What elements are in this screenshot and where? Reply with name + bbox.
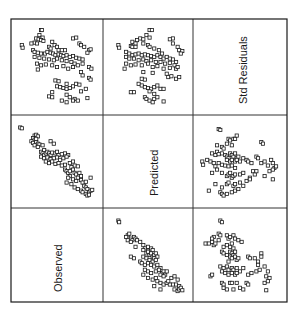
data-point bbox=[55, 150, 58, 153]
data-point bbox=[268, 170, 271, 173]
scatterplot-matrix: Std Residuals Predicted Observed bbox=[0, 0, 294, 316]
data-point bbox=[63, 49, 66, 52]
data-point bbox=[86, 51, 89, 54]
data-point bbox=[55, 57, 58, 60]
data-point bbox=[129, 240, 132, 243]
data-point bbox=[75, 56, 78, 59]
data-point bbox=[145, 33, 148, 36]
data-point bbox=[142, 273, 145, 276]
data-point bbox=[224, 164, 227, 167]
data-point bbox=[75, 36, 78, 39]
data-point bbox=[35, 62, 38, 65]
data-point bbox=[217, 239, 220, 242]
data-point bbox=[250, 162, 253, 165]
data-point bbox=[214, 242, 217, 245]
data-point bbox=[71, 160, 74, 163]
data-point bbox=[76, 176, 79, 179]
data-point bbox=[60, 59, 63, 62]
data-point bbox=[139, 240, 142, 243]
data-point bbox=[176, 45, 179, 48]
data-point bbox=[142, 70, 145, 73]
data-point bbox=[237, 239, 240, 242]
data-point bbox=[30, 42, 33, 45]
data-point bbox=[43, 57, 46, 60]
data-point bbox=[21, 46, 24, 49]
data-point bbox=[168, 66, 171, 69]
data-point bbox=[75, 179, 78, 182]
data-point bbox=[232, 268, 235, 271]
data-point bbox=[167, 280, 170, 283]
data-point bbox=[237, 187, 240, 190]
data-point bbox=[134, 245, 137, 248]
data-point bbox=[71, 99, 74, 102]
data-point bbox=[229, 245, 232, 248]
data-point bbox=[71, 178, 74, 181]
data-point bbox=[42, 39, 45, 42]
data-point bbox=[35, 137, 38, 140]
data-point bbox=[39, 155, 42, 158]
data-point bbox=[137, 52, 140, 55]
data-point bbox=[38, 33, 41, 36]
data-point bbox=[135, 239, 138, 242]
data-point bbox=[171, 42, 174, 45]
data-point bbox=[165, 72, 168, 75]
data-point bbox=[57, 162, 60, 165]
data-point bbox=[36, 145, 39, 148]
data-point bbox=[134, 42, 137, 45]
data-point bbox=[81, 181, 84, 184]
data-point bbox=[256, 263, 259, 266]
data-point bbox=[91, 188, 94, 191]
data-point bbox=[154, 60, 157, 63]
data-point bbox=[242, 157, 245, 160]
data-point bbox=[181, 289, 184, 292]
data-point bbox=[51, 160, 54, 163]
data-point bbox=[202, 163, 205, 166]
data-point bbox=[81, 191, 84, 194]
data-point bbox=[260, 252, 263, 255]
data-point bbox=[266, 270, 269, 273]
data-point bbox=[89, 78, 92, 81]
data-point bbox=[55, 65, 58, 68]
data-point bbox=[209, 160, 212, 163]
data-point bbox=[71, 65, 74, 68]
data-point bbox=[253, 257, 256, 260]
data-point bbox=[150, 28, 153, 31]
data-point bbox=[225, 244, 228, 247]
data-point bbox=[71, 37, 74, 40]
data-point bbox=[211, 237, 214, 240]
data-point bbox=[255, 170, 258, 173]
data-point bbox=[235, 158, 238, 161]
data-point bbox=[260, 162, 263, 165]
data-point bbox=[67, 176, 70, 179]
data-point bbox=[222, 286, 225, 289]
data-point bbox=[247, 273, 250, 276]
data-point bbox=[47, 162, 50, 165]
data-point bbox=[242, 171, 245, 174]
data-point bbox=[219, 265, 222, 268]
data-point bbox=[174, 77, 177, 80]
data-point bbox=[79, 174, 82, 177]
data-point bbox=[230, 257, 233, 260]
data-point bbox=[142, 248, 145, 251]
data-point bbox=[51, 96, 54, 99]
data-point bbox=[162, 275, 165, 278]
data-point bbox=[227, 260, 230, 263]
data-point bbox=[65, 82, 68, 85]
data-point bbox=[39, 52, 42, 55]
data-point bbox=[137, 82, 140, 85]
data-point bbox=[225, 192, 228, 195]
data-point bbox=[150, 59, 153, 62]
data-point bbox=[33, 55, 36, 58]
data-point bbox=[157, 49, 160, 52]
data-point bbox=[59, 86, 62, 89]
data-point bbox=[265, 289, 268, 292]
data-point bbox=[201, 160, 204, 163]
data-point bbox=[62, 65, 65, 68]
data-point bbox=[63, 152, 66, 155]
data-point bbox=[225, 288, 228, 291]
data-point bbox=[233, 237, 236, 240]
data-point bbox=[60, 164, 63, 167]
data-point bbox=[173, 275, 176, 278]
data-point bbox=[207, 242, 210, 245]
data-point bbox=[140, 64, 143, 67]
